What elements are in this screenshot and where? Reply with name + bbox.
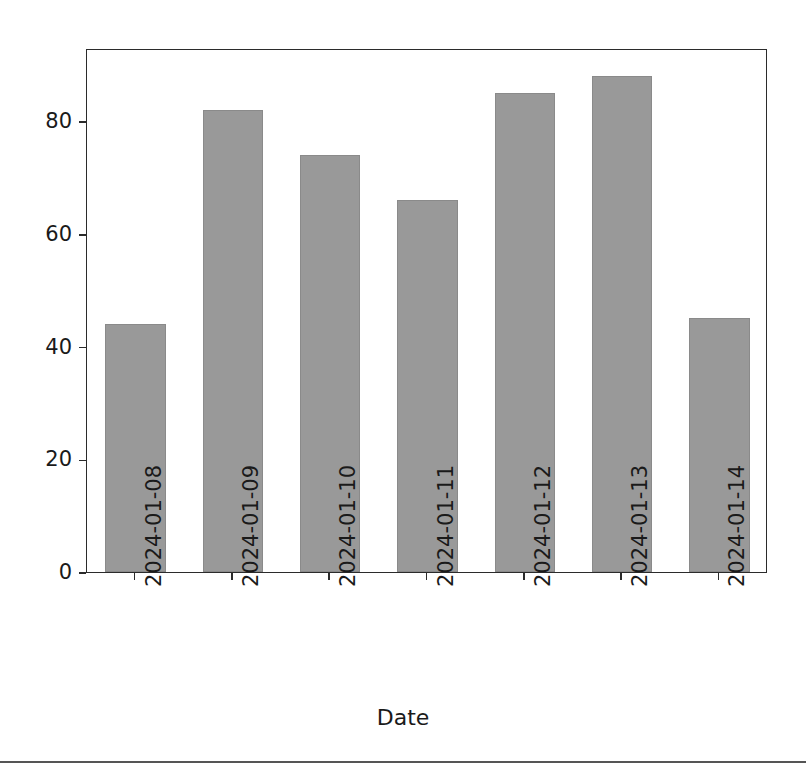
x-tick-label-2024-01-09: 2024-01-09 xyxy=(241,465,262,587)
y-tick-mark-0 xyxy=(79,572,86,574)
y-tick-mark-80 xyxy=(79,121,86,123)
x-tick-mark-2024-01-11 xyxy=(426,573,428,580)
plot-area xyxy=(86,49,767,573)
y-tick-label-0: 0 xyxy=(4,562,72,583)
footer-divider xyxy=(0,761,806,763)
y-tick-label-20: 20 xyxy=(4,449,72,470)
x-tick-label-2024-01-08: 2024-01-08 xyxy=(144,465,165,587)
x-tick-label-2024-01-10: 2024-01-10 xyxy=(338,465,359,587)
x-axis-label: Date xyxy=(0,705,806,730)
x-tick-mark-2024-01-10 xyxy=(328,573,330,580)
x-tick-mark-2024-01-08 xyxy=(134,573,136,580)
x-tick-mark-2024-01-14 xyxy=(718,573,720,580)
x-tick-label-2024-01-13: 2024-01-13 xyxy=(630,465,651,587)
y-tick-mark-20 xyxy=(79,460,86,462)
bars-layer xyxy=(87,50,766,572)
y-tick-label-80: 80 xyxy=(4,111,72,132)
x-tick-mark-2024-01-12 xyxy=(523,573,525,580)
x-tick-label-2024-01-12: 2024-01-12 xyxy=(533,465,554,587)
y-tick-mark-40 xyxy=(79,347,86,349)
y-tick-label-40: 40 xyxy=(4,337,72,358)
x-tick-label-2024-01-11: 2024-01-11 xyxy=(436,465,457,587)
x-tick-mark-2024-01-13 xyxy=(620,573,622,580)
y-tick-mark-60 xyxy=(79,234,86,236)
figure-canvas: Satisfaction (%) 020406080 2024-01-08202… xyxy=(0,0,806,768)
x-tick-label-2024-01-14: 2024-01-14 xyxy=(727,465,748,587)
y-tick-label-60: 60 xyxy=(4,224,72,245)
x-tick-mark-2024-01-09 xyxy=(231,573,233,580)
